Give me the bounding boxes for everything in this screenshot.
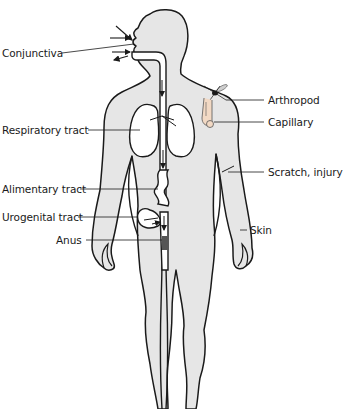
label-conjunctiva: Conjunctiva <box>2 47 63 59</box>
label-urogenital-tract: Urogenital tract <box>2 211 83 223</box>
label-alimentary-tract: Alimentary tract <box>2 183 86 195</box>
face-arrows <box>110 26 132 60</box>
body-silhouette <box>92 10 253 409</box>
label-respiratory-tract: Respiratory tract <box>2 124 89 136</box>
label-scratch-injury: Scratch, injury <box>268 166 343 178</box>
label-arthropod: Arthropod <box>268 94 320 106</box>
label-anus: Anus <box>56 234 82 246</box>
capillary-icon <box>202 98 214 128</box>
label-skin: Skin <box>250 224 272 236</box>
label-capillary: Capillary <box>268 116 313 128</box>
